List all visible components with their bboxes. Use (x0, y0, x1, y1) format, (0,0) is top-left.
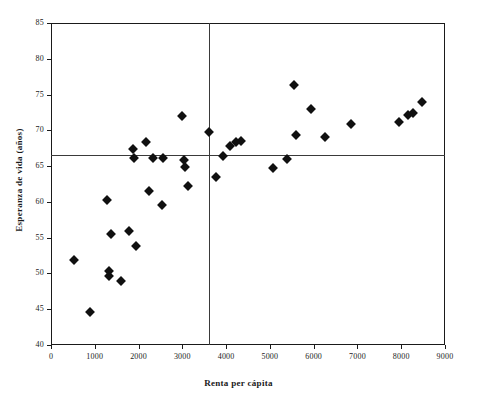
x-axis-tick-label: 0 (31, 352, 71, 361)
x-axis-tick-mark (95, 345, 96, 349)
plot-area (51, 23, 445, 345)
x-axis-tick-label: 4000 (206, 352, 246, 361)
y-axis-title: Esperanza de vida (años) (14, 115, 24, 245)
x-axis-tick-mark (226, 345, 227, 349)
x-axis-tick-mark (445, 345, 446, 349)
y-axis-tick-mark (47, 95, 51, 96)
x-axis-tick-mark (314, 345, 315, 349)
x-axis-tick-mark (357, 345, 358, 349)
x-axis-tick-mark (51, 345, 52, 349)
x-axis-tick-label: 7000 (337, 352, 377, 361)
x-axis-tick-mark (401, 345, 402, 349)
y-axis-tick-mark (47, 59, 51, 60)
y-axis-tick-label: 55 (14, 233, 44, 242)
x-axis-tick-label: 6000 (294, 352, 334, 361)
vertical-reference-line (209, 23, 210, 345)
y-axis-tick-label: 85 (14, 18, 44, 27)
scatter-chart-figure: Esperanza de vida (años) 404550556065707… (0, 0, 477, 402)
y-axis-tick-mark (47, 166, 51, 167)
y-axis-tick-label: 75 (14, 90, 44, 99)
y-axis-tick-label: 40 (14, 340, 44, 349)
y-axis-tick-label: 45 (14, 304, 44, 313)
y-axis-tick-label: 50 (14, 268, 44, 277)
x-axis-tick-label: 5000 (250, 352, 290, 361)
x-axis-tick-label: 8000 (381, 352, 421, 361)
y-axis-tick-mark (47, 238, 51, 239)
y-axis-tick-label: 60 (14, 197, 44, 206)
y-axis-tick-mark (47, 273, 51, 274)
page-caption (26, 394, 456, 402)
x-axis-tick-label: 1000 (75, 352, 115, 361)
x-axis-tick-label: 3000 (162, 352, 202, 361)
x-axis-tick-mark (182, 345, 183, 349)
x-axis-tick-mark (139, 345, 140, 349)
x-axis-tick-label: 9000 (425, 352, 465, 361)
horizontal-reference-line (51, 155, 445, 156)
y-axis-tick-label: 80 (14, 54, 44, 63)
y-axis-tick-mark (47, 309, 51, 310)
x-axis-tick-mark (270, 345, 271, 349)
y-axis-tick-mark (47, 23, 51, 24)
x-axis-title: Renta per cápita (0, 378, 477, 388)
y-axis-tick-label: 65 (14, 161, 44, 170)
y-axis-tick-mark (47, 130, 51, 131)
y-axis-tick-label: 70 (14, 125, 44, 134)
x-axis-tick-label: 2000 (119, 352, 159, 361)
y-axis-tick-mark (47, 202, 51, 203)
